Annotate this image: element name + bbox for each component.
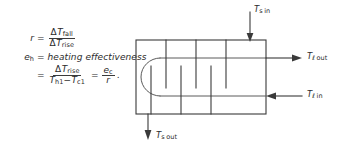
fraction-denominator: ΔTrise: [48, 39, 76, 49]
heat-exchanger-svg: [120, 0, 346, 151]
equation-heating-effectiveness-formula: = ΔTrise Th1−Tc1 = ec r .: [18, 65, 136, 86]
fraction-ec-over-r: ec r: [102, 66, 115, 86]
delta-symbol: Δ: [50, 38, 56, 48]
subscript-h1: h1: [55, 78, 63, 86]
equation-ratio-lhs: r: [18, 34, 34, 44]
subscript-out: out: [317, 54, 328, 62]
subscript-rise: rise: [62, 41, 74, 49]
subscript-s: s: [161, 133, 165, 141]
equation-block: r = ΔTfall ΔTrise eh = heating effective…: [18, 28, 136, 90]
fraction-delta-t-fall-over-delta-t-rise: ΔTfall ΔTrise: [48, 28, 76, 49]
equals-sign: =: [37, 53, 45, 63]
equals-sign-2: =: [91, 71, 99, 81]
fraction-denominator: Th1−Tc1: [48, 76, 87, 86]
tube-outlet-arrowhead: [292, 55, 302, 62]
shell-outline: [136, 40, 266, 114]
shell-inlet-arrowhead: [247, 33, 254, 42]
label-shell-inlet: Tsin: [254, 4, 270, 15]
subscript-liquid: ℓ: [312, 92, 315, 100]
equals-sign: =: [37, 34, 45, 44]
equation-heating-effectiveness-definition: eh = heating effectiveness: [18, 53, 136, 63]
subscript-c1: c1: [77, 78, 85, 86]
label-liquid-inlet: Tℓin: [307, 89, 323, 100]
subscript-c: c: [109, 68, 113, 76]
heat-exchanger-figure: r = ΔTfall ΔTrise eh = heating effective…: [0, 0, 346, 151]
subscript-in: in: [264, 7, 270, 15]
subscript-rise: rise: [67, 67, 79, 75]
equation-eh-lhs: eh: [18, 53, 34, 63]
subscript-liquid: ℓ: [312, 54, 315, 62]
fraction-delta-t-rise-over-temperature-difference: ΔTrise Th1−Tc1: [48, 65, 87, 86]
subscript-fall: fall: [63, 30, 73, 38]
heat-exchanger-diagram: Tsin Tsout Tℓout Tℓin: [120, 0, 346, 151]
subscript-out: out: [166, 133, 177, 141]
equation-ratio: r = ΔTfall ΔTrise: [18, 28, 136, 49]
minus-sign: −: [64, 75, 72, 85]
subscript-in: in: [317, 92, 323, 100]
equals-sign: =: [37, 71, 45, 81]
label-liquid-outlet: Tℓout: [307, 51, 327, 62]
label-shell-outlet: Tsout: [156, 130, 177, 141]
fraction-denominator: r: [104, 76, 112, 85]
subscript-h: h: [30, 55, 34, 63]
r-symbol: r: [106, 75, 110, 85]
subscript-s: s: [259, 7, 263, 15]
tube-inlet-arrowhead: [266, 93, 276, 100]
shell-outlet-arrowhead: [145, 130, 152, 140]
delta-symbol: Δ: [55, 64, 61, 74]
delta-symbol: Δ: [51, 27, 57, 37]
